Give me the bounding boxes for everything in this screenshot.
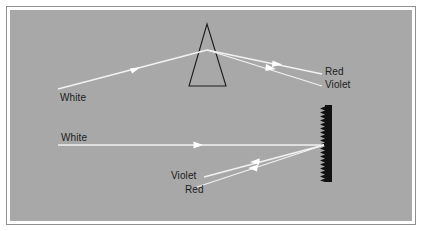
grating-diffracted-red-ray [197,145,324,187]
label-grating-red: Red [185,184,204,195]
optics-diagram [0,0,422,231]
label-prism-violet: Violet [325,79,350,90]
grating-diffracted-violet-ray [204,145,324,177]
label-prism-incident-white: White [60,92,86,103]
diffraction-grating-teeth-icon [320,107,325,183]
label-grating-incident-white: White [61,132,87,143]
triangular-prism-icon [189,24,226,86]
label-prism-red: Red [325,66,344,77]
grating-incident-arrow-icon [194,142,204,149]
prism-refracted-red-ray [207,50,322,74]
prism-incident-arrow-icon [130,67,141,73]
figure-root: White Red Violet White Violet Red [0,0,422,231]
diffraction-grating-bar [325,105,332,182]
label-grating-violet: Violet [171,170,196,181]
grating-red-arrow-icon [248,165,258,172]
